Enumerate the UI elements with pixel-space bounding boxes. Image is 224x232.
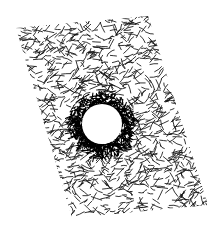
center-hole — [82, 104, 122, 144]
hatched-sheet-drawing — [0, 0, 224, 232]
